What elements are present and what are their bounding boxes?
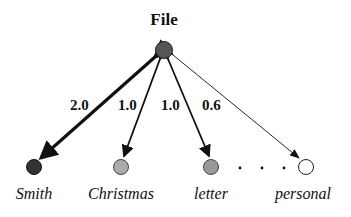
weight-christmas: 1.0 (118, 97, 137, 113)
label-smith: Smith (16, 185, 52, 202)
file-term-graph: File 2.0 1.0 1.0 0.6 Smith Christmas let… (0, 0, 351, 217)
label-personal: personal (274, 185, 332, 203)
root-node (156, 42, 173, 59)
root-label: File (150, 10, 178, 29)
node-letter (204, 160, 219, 175)
weight-smith: 2.0 (70, 97, 89, 113)
label-letter: letter (194, 185, 229, 202)
node-christmas (114, 160, 129, 175)
edge-personal (173, 55, 299, 158)
node-personal (299, 160, 314, 175)
edge-smith (41, 57, 155, 158)
ellipsis-dots (239, 167, 286, 170)
weight-personal: 0.6 (202, 97, 221, 113)
weight-letter: 1.0 (161, 97, 180, 113)
node-smith (27, 160, 42, 175)
label-christmas: Christmas (88, 185, 154, 202)
